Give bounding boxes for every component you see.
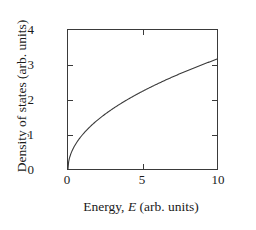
plot-area (67, 29, 218, 170)
x-axis-title-suffix: (arb. units) (140, 199, 199, 214)
x-axis-title-symbol: E (128, 199, 136, 214)
x-axis-title-prefix: Energy, (83, 199, 124, 214)
x-tick-label-0: 0 (54, 173, 80, 186)
dos-curve (68, 30, 217, 169)
x-axis-title: Energy, E (arb. units) (46, 199, 236, 215)
y-axis-title: Density of states (arb. units) (14, 6, 30, 186)
density-of-states-figure: 4 3 2 1 0 0 5 10 Density of states (arb.… (0, 0, 256, 230)
x-tick-label-10: 10 (205, 173, 231, 186)
x-tick-label-5: 5 (129, 173, 155, 186)
